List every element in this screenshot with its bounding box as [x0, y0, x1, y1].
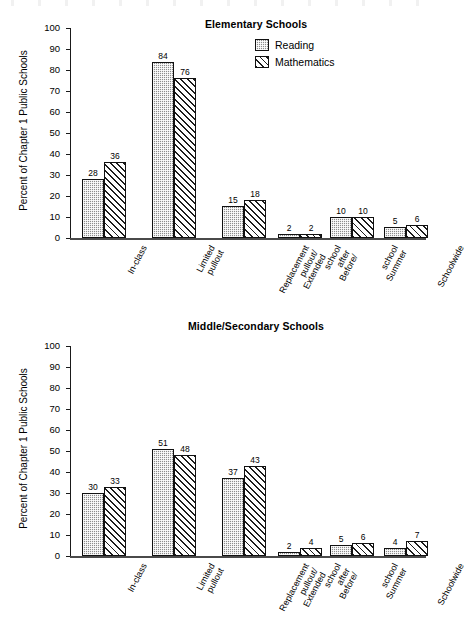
y-axis-tick — [66, 388, 70, 389]
y-axis-tick — [66, 217, 70, 218]
x-axis-category-label: In-class — [126, 244, 149, 276]
x-axis-category-label: schoolSummer — [376, 562, 409, 601]
y-axis-tick-label: 20 — [36, 190, 60, 201]
y-axis-tick-label: 80 — [36, 382, 60, 393]
chart-panel-elementary: Elementary Schools Percent of Chapter 1 … — [0, 0, 441, 318]
y-axis-tick-label: 90 — [36, 43, 60, 54]
bar-math — [300, 234, 322, 238]
y-axis-tick — [66, 49, 70, 50]
x-axis-category-label: schoolafterBefore/ — [321, 562, 360, 601]
x-axis-category-label: Limitedpullout — [195, 562, 226, 597]
y-axis-tick-label: 60 — [36, 106, 60, 117]
bar-math — [244, 466, 266, 556]
x-axis-category-label: Schoolwide — [436, 244, 466, 289]
y-axis-tick — [66, 91, 70, 92]
y-axis-label: Percent of Chapter 1 Public Schools — [18, 16, 29, 246]
x-axis-category-label: schoolSummer — [376, 244, 409, 283]
legend-label-reading: Reading — [275, 39, 314, 51]
y-axis-tick-label: 80 — [36, 64, 60, 75]
bar-reading — [278, 552, 300, 556]
bar-reading — [222, 206, 244, 238]
legend-swatch-mathematics-icon — [255, 56, 269, 68]
legend-swatch-reading-icon — [255, 39, 269, 51]
x-axis-category-label: schoolafterBefore/ — [321, 244, 360, 283]
y-axis-tick — [66, 346, 70, 347]
bar-reading — [330, 217, 352, 238]
y-axis-tick-label: 0 — [36, 550, 60, 561]
bar-reading — [152, 449, 174, 556]
chart-title-middle-secondary: Middle/Secondary Schools — [188, 320, 324, 332]
y-axis-tick-label: 100 — [36, 340, 60, 351]
y-axis-tick-label: 70 — [36, 85, 60, 96]
y-axis-line — [70, 28, 71, 239]
bar-reading — [82, 179, 104, 238]
bar-math — [406, 541, 428, 556]
bar-value-label: 33 — [99, 476, 131, 486]
y-axis-tick — [66, 133, 70, 134]
y-axis-tick-label: 30 — [36, 169, 60, 180]
x-axis-category-label: Replacementpullout/Extended — [278, 562, 328, 622]
bar-reading — [152, 62, 174, 238]
bar-reading — [384, 548, 406, 556]
bar-value-label: 4 — [295, 537, 327, 547]
bar-value-label: 7 — [401, 530, 433, 540]
y-axis-tick-label: 20 — [36, 508, 60, 519]
bar-math — [300, 548, 322, 556]
y-axis-tick — [66, 238, 70, 239]
x-axis-category-label: Schoolwide — [436, 562, 466, 607]
y-axis-tick-label: 10 — [36, 211, 60, 222]
y-axis-tick-label: 70 — [36, 403, 60, 414]
bar-value-label: 36 — [99, 151, 131, 161]
y-axis-tick — [66, 430, 70, 431]
y-axis-tick — [66, 556, 70, 557]
y-axis-tick — [66, 409, 70, 410]
y-axis-label: Percent of Chapter 1 Public Schools — [18, 334, 29, 564]
y-axis-tick-label: 10 — [36, 529, 60, 540]
y-axis-line — [70, 346, 71, 557]
y-axis-tick — [66, 196, 70, 197]
bar-reading — [384, 227, 406, 238]
y-axis-tick-label: 60 — [36, 424, 60, 435]
bar-math — [174, 78, 196, 238]
x-axis-baseline — [70, 238, 426, 240]
x-axis-category-label: Replacementpullout/Extended — [278, 244, 328, 304]
bar-reading — [330, 545, 352, 556]
y-axis-tick-label: 50 — [36, 127, 60, 138]
chart-title-elementary: Elementary Schools — [205, 18, 307, 30]
legend-item-mathematics: Mathematics — [255, 54, 335, 69]
bar-math — [244, 200, 266, 238]
y-axis-tick-label: 50 — [36, 445, 60, 456]
bar-value-label: 10 — [347, 206, 379, 216]
bar-math — [352, 543, 374, 556]
y-axis-tick-label: 0 — [36, 232, 60, 243]
bar-value-label: 6 — [347, 532, 379, 542]
bar-value-label: 84 — [147, 51, 179, 61]
x-axis-category-label: In-class — [126, 562, 149, 594]
bar-reading — [82, 493, 104, 556]
bar-math — [406, 225, 428, 238]
y-axis-tick-label: 90 — [36, 361, 60, 372]
y-axis-tick — [66, 175, 70, 176]
bar-value-label: 48 — [169, 444, 201, 454]
y-axis-tick — [66, 493, 70, 494]
bar-value-label: 43 — [239, 455, 271, 465]
legend-label-mathematics: Mathematics — [275, 56, 335, 68]
x-axis-label-line: Schoolwide — [436, 562, 466, 607]
y-axis-tick — [66, 70, 70, 71]
y-axis-tick — [66, 28, 70, 29]
x-axis-label-line: Schoolwide — [436, 244, 466, 289]
legend-item-reading: Reading — [255, 37, 335, 52]
bar-math — [104, 487, 126, 556]
y-axis-tick — [66, 451, 70, 452]
y-axis-tick — [66, 535, 70, 536]
x-axis-label-line: In-class — [126, 244, 149, 276]
bar-value-label: 18 — [239, 189, 271, 199]
bar-reading — [222, 478, 244, 556]
x-axis-category-label: Limitedpullout — [195, 244, 226, 279]
y-axis-tick — [66, 112, 70, 113]
bar-value-label: 76 — [169, 67, 201, 77]
chart-legend: Reading Mathematics — [255, 37, 335, 71]
y-axis-tick-label: 30 — [36, 487, 60, 498]
y-axis-tick — [66, 154, 70, 155]
y-axis-tick-label: 40 — [36, 466, 60, 477]
